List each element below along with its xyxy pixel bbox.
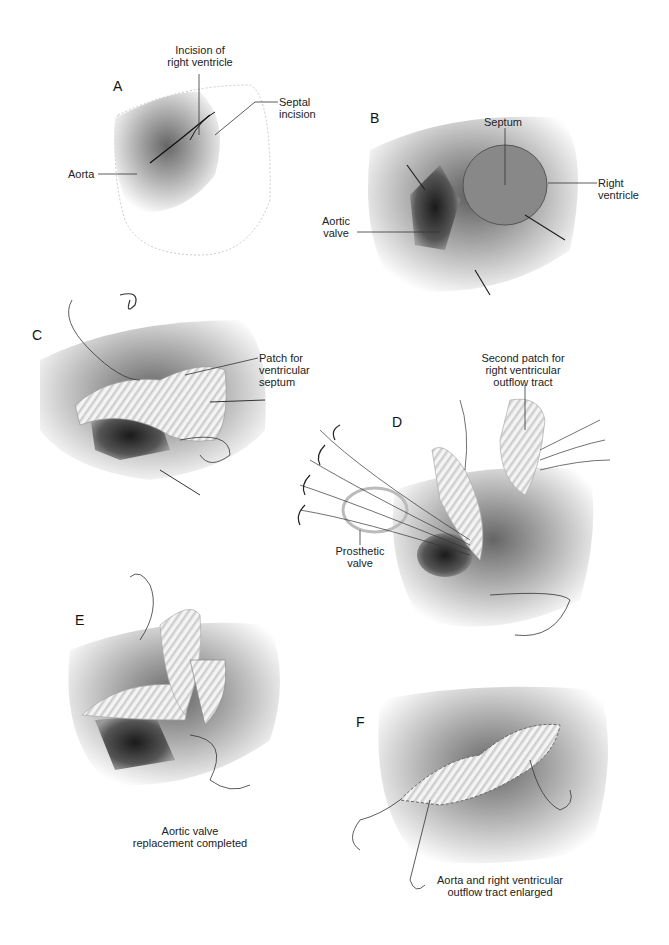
panel-letter-f: F [356, 714, 365, 730]
caption-panel-e: Aortic valve replacement completed [125, 825, 255, 849]
panel-c-heart [40, 294, 266, 495]
panel-d-heart [298, 385, 610, 636]
label-aorta: Aorta [68, 168, 94, 180]
panel-letter-a: A [113, 78, 122, 94]
panel-letter-b: B [370, 110, 379, 126]
panel-letter-d: D [392, 414, 402, 430]
panel-f-heart [353, 687, 609, 889]
panel-e-heart [68, 574, 280, 789]
panel-a-heart [98, 74, 278, 255]
label-aortic-valve: Aortic valve [318, 215, 354, 239]
surgical-illustration [0, 0, 669, 945]
label-second-patch: Second patch for right ventricular outfl… [478, 352, 568, 388]
label-patch-ventricular-septum: Patch for ventricular septum [259, 352, 310, 388]
label-prosthetic-valve: Prosthetic valve [332, 545, 388, 569]
label-right-ventricle: Right ventricle [598, 177, 639, 201]
panel-b-heart [357, 117, 597, 295]
label-septum: Septum [484, 116, 522, 128]
caption-panel-f: Aorta and right ventricular outflow trac… [430, 874, 570, 898]
label-incision-right-ventricle: Incision of right ventricle [165, 44, 235, 68]
label-septal-incision: Septal incision [279, 96, 316, 120]
panel-letter-e: E [75, 612, 84, 628]
panel-letter-c: C [32, 327, 42, 343]
